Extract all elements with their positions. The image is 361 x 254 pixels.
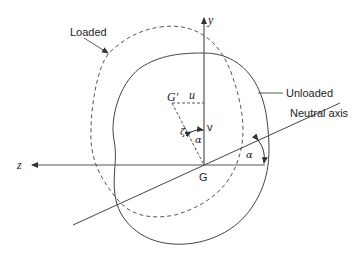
loaded-leader [84,38,108,53]
centroid-label: G [199,171,208,183]
alpha-outer-label: α [246,149,253,160]
u-label: u [189,88,195,102]
y-axis-label: y [207,13,214,27]
alpha-arc-outer [258,140,264,163]
neutral-axis-label: Neutral axis [290,107,349,119]
alpha-inner-label: α [195,134,202,145]
loaded-label: Loaded [70,26,107,38]
unloaded-label: Unloaded [286,87,333,99]
displaced-centroid-label: G′ [167,90,179,104]
alpha-arc-inner [191,130,203,132]
v-label: v [207,121,213,133]
section-deflection-diagram: Loaded Unloaded Neutral axis y z G G′ u … [0,0,361,254]
zeta-label: ζ [180,126,186,137]
z-axis-label: z [16,158,22,172]
